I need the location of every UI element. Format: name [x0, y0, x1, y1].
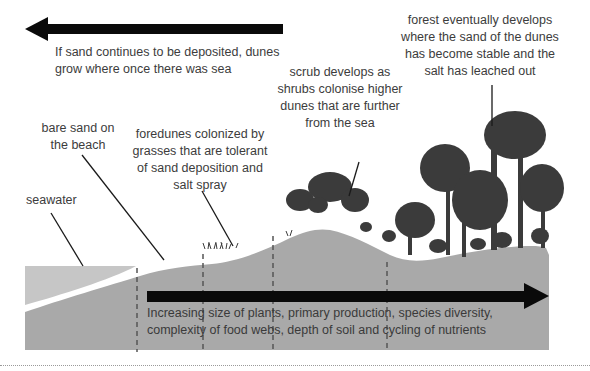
label-bare-sand: bare sand on the beach — [38, 120, 118, 154]
top-arrow-caption: If sand continues to be deposited, dunes… — [55, 44, 279, 78]
bottom-arrow-caption: Increasing size of plants, primary produ… — [147, 305, 493, 339]
scrub-icon — [286, 172, 396, 242]
label-forest: forest eventually develops where the san… — [395, 12, 565, 80]
bottom-divider — [0, 365, 590, 366]
label-foredunes: foredunes colonized by grasses that are … — [130, 126, 270, 194]
label-scrub: scrub develops as shrubs colonise higher… — [272, 64, 408, 132]
forest-icon — [395, 111, 564, 257]
label-seawater: seawater — [26, 192, 77, 209]
arrow-left-icon — [25, 17, 283, 41]
